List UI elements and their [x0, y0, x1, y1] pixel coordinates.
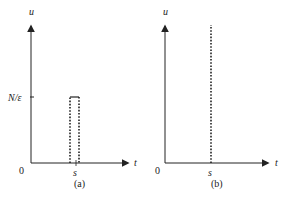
x-axis-label-a: t [134, 157, 137, 168]
origin-label-b: 0 [155, 165, 160, 176]
caption-b: (b) [211, 178, 223, 190]
y-axis-label-a: u [29, 6, 34, 17]
panel-a: u t 0 s N/ε (a) [7, 6, 137, 190]
height-label-a: N/ε [7, 92, 21, 103]
impulse-diagram: u t 0 s N/ε (a) u t 0 s (b) [0, 0, 295, 201]
panel-b: u t 0 s (b) [155, 6, 278, 190]
origin-label-a: 0 [19, 165, 24, 176]
s-tick-label-a: s [73, 167, 77, 178]
x-axis-label-b: t [275, 157, 278, 168]
y-axis-label-b: u [163, 6, 168, 17]
caption-a: (a) [74, 178, 85, 190]
s-tick-label-b: s [208, 167, 212, 178]
